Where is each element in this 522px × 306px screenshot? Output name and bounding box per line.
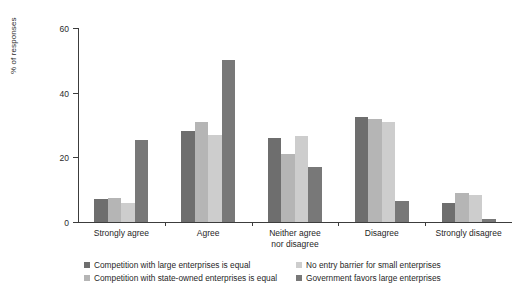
bar <box>222 60 236 222</box>
bar-group <box>78 28 165 222</box>
bar <box>268 138 282 222</box>
bar <box>281 154 295 222</box>
bar <box>455 193 469 222</box>
legend-swatch-icon <box>84 262 90 268</box>
y-axis-tick: 0 <box>73 222 78 223</box>
legend-label: Government favors large enterprises <box>306 273 441 283</box>
x-axis-category-label: Disagree <box>338 228 425 239</box>
x-axis-category-label: Agree <box>165 228 252 239</box>
x-axis-line <box>78 222 512 223</box>
bar <box>135 140 149 222</box>
legend-swatch-icon <box>296 275 302 281</box>
bar <box>482 219 496 222</box>
bar <box>442 203 456 222</box>
bar-group <box>425 28 512 222</box>
legend-label: Competition with state-owned enterprises… <box>94 273 277 283</box>
bar-chart-figure: % of responses 0204060 Strongly agreeAgr… <box>0 0 522 306</box>
x-axis-category-label: Neither agree nor disagree <box>252 228 339 249</box>
bar <box>355 117 369 222</box>
bar <box>121 203 135 222</box>
bar <box>181 131 195 222</box>
y-axis-tick-label: 40 <box>60 89 69 99</box>
bar-group <box>338 28 425 222</box>
bar <box>195 122 209 222</box>
y-axis-tick-label: 60 <box>60 24 69 34</box>
bar-group <box>165 28 252 222</box>
legend-label: Competition with large enterprises is eq… <box>94 260 250 270</box>
bar <box>382 122 396 222</box>
bar <box>308 167 322 222</box>
x-axis-separator <box>165 222 166 226</box>
legend-item[interactable]: Competition with state-owned enterprises… <box>84 272 296 284</box>
bar <box>94 199 108 222</box>
legend-item[interactable]: No entry barrier for small enterprises <box>296 259 506 271</box>
legend-item[interactable]: Competition with large enterprises is eq… <box>84 259 296 271</box>
x-axis-category-label: Strongly disagree <box>425 228 512 239</box>
x-axis-category-label: Strongly agree <box>78 228 165 239</box>
plot-area <box>78 28 512 222</box>
x-axis-separator <box>425 222 426 226</box>
x-axis-separator <box>338 222 339 226</box>
legend-swatch-icon <box>84 275 90 281</box>
chart-legend: Competition with large enterprises is eq… <box>84 259 514 284</box>
y-axis-tick-label: 20 <box>60 153 69 163</box>
bar <box>368 119 382 222</box>
bar <box>208 135 222 222</box>
legend-swatch-icon <box>296 262 302 268</box>
bar-group <box>252 28 339 222</box>
bar <box>108 198 122 222</box>
bar <box>295 136 309 222</box>
bar <box>395 201 409 222</box>
legend-item[interactable]: Government favors large enterprises <box>296 272 506 284</box>
y-axis-title: % of responses <box>9 0 18 74</box>
y-axis-title-container: % of responses <box>0 0 26 230</box>
y-axis-tick-label: 0 <box>64 218 69 228</box>
x-axis-separator <box>252 222 253 226</box>
legend-label: No entry barrier for small enterprises <box>306 260 441 270</box>
bar <box>469 195 483 222</box>
